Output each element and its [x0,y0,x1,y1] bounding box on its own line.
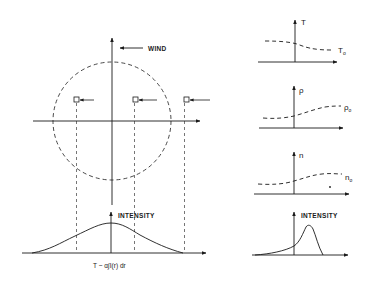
square-probe-icon [74,97,79,102]
wind-label: WIND [148,45,167,52]
panel-y-label: INTENSITY [301,212,338,219]
square-probe-icon [133,97,138,102]
integrated-intensity-plot: INTENSITY T ~ α∫I(r) dr [22,212,206,270]
stray-dot [329,186,331,188]
panel-curve-label: ρo [344,103,352,113]
main-diagram: WIND [33,38,210,253]
probe-center [133,97,157,253]
panel-curve-label: To [338,46,346,56]
temperature-formula: T ~ α∫I(r) dr [93,262,127,270]
panel-temperature: T To [258,18,346,62]
wind-indicator: WIND [120,45,167,52]
skewed-intensity-curve [255,225,323,255]
panel-y-label: T [301,18,306,27]
panel-intensity: INTENSITY [252,212,348,255]
intensity-label: INTENSITY [118,212,155,219]
panel-density: ρ ρo [259,86,352,128]
probe-left [74,97,94,253]
number-density-profile-curve [258,174,342,185]
probe-right [184,97,210,253]
temperature-profile-curve [265,41,331,50]
bell-curve [32,223,183,253]
panel-y-label: ρ [299,86,304,95]
density-profile-curve [263,106,341,118]
panel-y-label: n [299,151,303,160]
figure-canvas: WIND INTENSITY T ~ α∫I(r) dr T [0,0,373,288]
panel-curve-label: no [345,173,352,183]
square-probe-icon [184,97,189,102]
panel-number-density: n no [254,151,352,194]
